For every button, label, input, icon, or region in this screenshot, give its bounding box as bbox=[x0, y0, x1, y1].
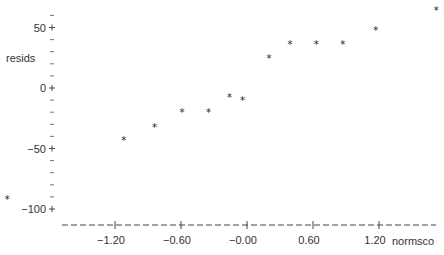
x-axis: −1.20−0.60−0.000.601.20 bbox=[62, 221, 436, 246]
data-points: ************* bbox=[5, 5, 439, 205]
y-tick-label: 0 bbox=[40, 82, 46, 94]
data-point: * bbox=[373, 25, 378, 36]
y-axis-label: resids bbox=[6, 52, 36, 64]
data-point: * bbox=[206, 107, 211, 118]
data-point: * bbox=[314, 39, 319, 50]
scatter-plot: 500−50−100 −1.20−0.60−0.000.601.20 *****… bbox=[0, 0, 444, 255]
data-point: * bbox=[227, 92, 232, 103]
y-tick-label: 50 bbox=[34, 22, 46, 34]
y-axis: 500−50−100 bbox=[21, 15, 55, 215]
data-point: * bbox=[180, 107, 185, 118]
x-axis-label: normsco bbox=[392, 235, 434, 247]
data-point: * bbox=[287, 39, 292, 50]
data-point: * bbox=[152, 122, 157, 133]
y-tick-label: −100 bbox=[21, 203, 46, 215]
data-point: * bbox=[121, 135, 126, 146]
x-tick-label: 0.60 bbox=[298, 234, 319, 246]
data-point: * bbox=[5, 194, 10, 205]
x-tick-label: −0.00 bbox=[229, 234, 257, 246]
data-point: * bbox=[340, 39, 345, 50]
data-point: * bbox=[267, 53, 272, 64]
x-tick-label: −1.20 bbox=[97, 234, 125, 246]
x-tick-label: −0.60 bbox=[163, 234, 191, 246]
data-point: * bbox=[434, 5, 439, 16]
y-tick-label: −50 bbox=[27, 143, 46, 155]
data-point: * bbox=[240, 95, 245, 106]
x-tick-label: 1.20 bbox=[364, 234, 385, 246]
